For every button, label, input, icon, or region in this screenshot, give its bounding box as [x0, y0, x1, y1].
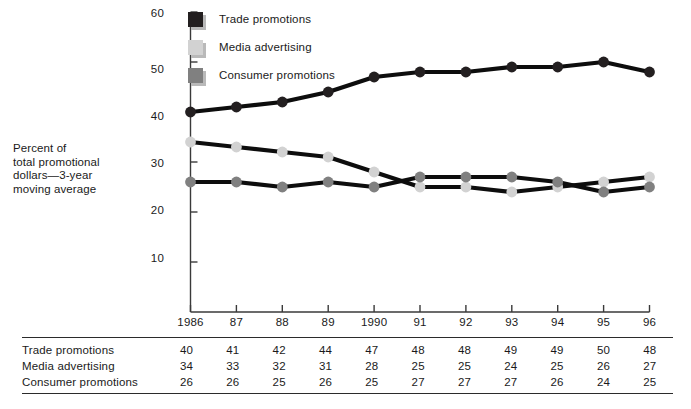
table-bottom-rule [22, 393, 673, 394]
table-cell-88: 32 [256, 358, 302, 374]
y-tick-label-50: 50 [138, 63, 164, 75]
data-point-trade-promotions-93 [506, 62, 517, 73]
table-cell-91: 27 [395, 374, 441, 390]
legend-item-consumer-promotions: Consumer promotions [186, 66, 416, 91]
table-cell-92: 27 [441, 374, 487, 390]
chart-page: Percent of total promotional dollars—3-y… [0, 0, 691, 409]
legend-label-consumer-promotions: Consumer promotions [219, 67, 335, 83]
x-tick-label-87: 87 [212, 316, 260, 328]
legend-item-trade-promotions: Trade promotions [186, 10, 416, 35]
x-tick-label-94: 94 [534, 316, 582, 328]
data-point-media-advertising-89 [323, 152, 334, 163]
x-tick-label-1986: 1986 [167, 316, 215, 328]
table-cell-95: 26 [580, 358, 626, 374]
legend-item-media-advertising: Media advertising [186, 38, 416, 63]
y-tick-label-20: 20 [138, 204, 164, 216]
data-point-trade-promotions-1986 [185, 107, 196, 118]
x-tick-label-96: 96 [626, 316, 674, 328]
table-cell-96: 25 [627, 374, 673, 390]
data-point-consumer-promotions-1986 [185, 177, 196, 188]
table-cell-1990: 47 [349, 342, 395, 358]
table-cell-89: 26 [302, 374, 348, 390]
table-cell-89: 31 [302, 358, 348, 374]
x-tick-label-89: 89 [304, 316, 352, 328]
table-row: Trade promotions4041424447484849495048 [22, 342, 673, 358]
y-tick-label-30: 30 [138, 157, 164, 169]
table-cell-87: 33 [210, 358, 256, 374]
data-point-media-advertising-88 [277, 147, 288, 158]
table-cell-95: 50 [580, 342, 626, 358]
table-row: Media advertising3433323128252524252627 [22, 358, 673, 374]
table-cell-92: 48 [441, 342, 487, 358]
chart-legend: Trade promotions Media advertising Consu… [186, 10, 416, 94]
data-table-container: Trade promotions4041424447484849495048Me… [22, 337, 673, 394]
legend-label-media-advertising: Media advertising [219, 39, 312, 55]
table-cell-87: 26 [210, 374, 256, 390]
data-point-consumer-promotions-91 [415, 172, 426, 183]
data-point-consumer-promotions-94 [552, 177, 563, 188]
legend-swatch-media-advertising [188, 40, 203, 55]
table-cell-88: 42 [256, 342, 302, 358]
table-row: Consumer promotions262625262527272726242… [22, 374, 673, 390]
table-cell-1990: 25 [349, 374, 395, 390]
table-row-label: Media advertising [22, 358, 163, 374]
table-cell-88: 25 [256, 374, 302, 390]
table-cell-91: 48 [395, 342, 441, 358]
table-cell-95: 24 [580, 374, 626, 390]
data-point-media-advertising-93 [506, 187, 517, 198]
x-tick-label-92: 92 [442, 316, 490, 328]
data-point-consumer-promotions-1990 [369, 182, 380, 193]
data-point-consumer-promotions-87 [231, 177, 242, 188]
table-cell-87: 41 [210, 342, 256, 358]
table-cell-1986: 40 [163, 342, 209, 358]
y-tick-label-10: 10 [138, 252, 164, 264]
data-point-media-advertising-1986 [185, 137, 196, 148]
data-point-trade-promotions-95 [598, 57, 609, 68]
data-point-consumer-promotions-93 [506, 172, 517, 183]
table-cell-96: 27 [627, 358, 673, 374]
table-cell-94: 26 [534, 374, 580, 390]
table-cell-94: 25 [534, 358, 580, 374]
data-point-trade-promotions-94 [552, 62, 563, 73]
data-point-media-advertising-91 [415, 182, 426, 193]
table-cell-89: 44 [302, 342, 348, 358]
legend-label-trade-promotions: Trade promotions [219, 11, 311, 27]
table-cell-94: 49 [534, 342, 580, 358]
y-tick-label-60: 60 [138, 7, 164, 19]
data-point-media-advertising-95 [598, 177, 609, 188]
table-row-label: Trade promotions [22, 342, 163, 358]
table-cell-93: 24 [488, 358, 534, 374]
table-cell-93: 49 [488, 342, 534, 358]
data-point-trade-promotions-87 [231, 102, 242, 113]
data-point-consumer-promotions-89 [323, 177, 334, 188]
x-tick-label-88: 88 [258, 316, 306, 328]
table-cell-91: 25 [395, 358, 441, 374]
y-tick-label-40: 40 [138, 110, 164, 122]
data-point-consumer-promotions-92 [461, 172, 472, 183]
data-point-consumer-promotions-96 [644, 182, 655, 193]
data-point-media-advertising-87 [231, 142, 242, 153]
table-row-label: Consumer promotions [22, 374, 163, 390]
legend-swatch-trade-promotions [188, 12, 203, 27]
data-point-trade-promotions-96 [644, 67, 655, 78]
table-cell-92: 25 [441, 358, 487, 374]
table-cell-1986: 34 [163, 358, 209, 374]
data-point-media-advertising-96 [644, 172, 655, 183]
data-point-trade-promotions-91 [415, 67, 426, 78]
x-tick-label-91: 91 [396, 316, 444, 328]
data-table: Trade promotions4041424447484849495048Me… [22, 342, 673, 390]
table-cell-1986: 26 [163, 374, 209, 390]
data-point-consumer-promotions-88 [277, 182, 288, 193]
data-point-media-advertising-1990 [369, 167, 380, 178]
table-cell-1990: 28 [349, 358, 395, 374]
data-point-consumer-promotions-95 [598, 187, 609, 198]
data-point-trade-promotions-92 [461, 67, 472, 78]
data-point-trade-promotions-88 [277, 97, 288, 108]
x-tick-label-93: 93 [488, 316, 536, 328]
x-tick-label-95: 95 [580, 316, 628, 328]
legend-swatch-consumer-promotions [188, 68, 203, 83]
data-point-media-advertising-92 [461, 182, 472, 193]
x-tick-label-1990: 1990 [350, 316, 398, 328]
table-cell-96: 48 [627, 342, 673, 358]
table-cell-93: 27 [488, 374, 534, 390]
